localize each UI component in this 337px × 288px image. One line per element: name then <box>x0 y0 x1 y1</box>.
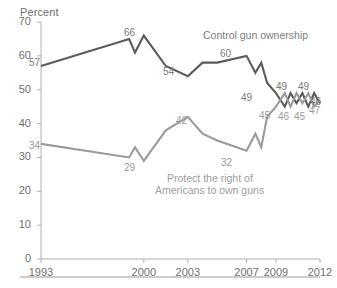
x-axis-tick-label: 2009 <box>256 266 296 278</box>
y-axis-tick-label: 40 <box>9 117 31 129</box>
data-point-label: 47 <box>309 105 320 116</box>
data-point-label: 57 <box>29 57 40 68</box>
series-annotation: Control gun ownership <box>203 29 308 41</box>
chart-axes <box>37 22 320 263</box>
data-point-label: 45 <box>259 110 270 121</box>
x-axis-tick-label: 1993 <box>21 266 61 278</box>
series-line-control-gun-ownership <box>41 36 320 107</box>
x-axis-tick-label: 2012 <box>300 266 337 278</box>
data-point-label: 29 <box>124 162 135 173</box>
x-axis-tick-label: 2000 <box>124 266 164 278</box>
data-point-label: 60 <box>220 48 231 59</box>
y-axis-tick-label: 10 <box>9 218 31 230</box>
data-point-label: 46 <box>278 111 289 122</box>
data-point-label: 54 <box>163 66 174 77</box>
data-point-label: 45 <box>294 111 305 122</box>
data-point-label: 42 <box>176 115 187 126</box>
y-axis-tick-label: 70 <box>9 15 31 27</box>
data-point-label: 32 <box>221 157 232 168</box>
chart-series-lines <box>41 36 320 161</box>
data-point-label: 34 <box>29 140 40 151</box>
series-line-protect-right-to-own-guns <box>41 93 320 161</box>
data-point-label: 49 <box>276 81 287 92</box>
x-axis-tick-label: 2003 <box>168 266 208 278</box>
y-axis-tick-label: 50 <box>9 83 31 95</box>
data-point-label: 49 <box>298 81 309 92</box>
data-point-label: 49 <box>241 92 252 103</box>
y-axis-tick-label: 60 <box>9 49 31 61</box>
y-axis-tick-label: 20 <box>9 184 31 196</box>
data-point-label: 66 <box>124 27 135 38</box>
series-annotation: Americans to own guns <box>155 184 264 196</box>
y-axis-tick-label: 30 <box>9 150 31 162</box>
series-annotation: Protect the right of <box>167 172 253 184</box>
y-axis-tick-label: 0 <box>9 252 31 264</box>
